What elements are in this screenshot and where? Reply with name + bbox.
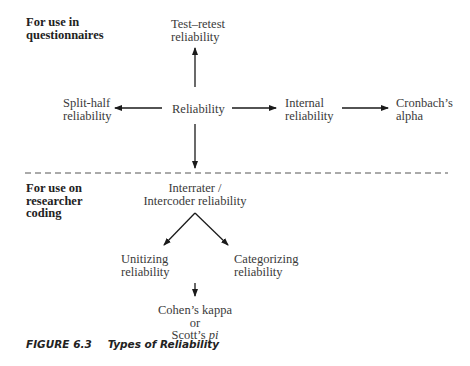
node-text: alpha bbox=[396, 110, 453, 123]
node-text: Intercoder reliability bbox=[135, 195, 255, 208]
node-text: reliability bbox=[63, 110, 112, 123]
section-label-line: For use in bbox=[26, 16, 104, 29]
node-text: reliability bbox=[234, 266, 299, 279]
node-categorizing: Categorizing reliability bbox=[234, 253, 299, 278]
section-label-line: For use on bbox=[26, 182, 82, 195]
node-reliability: Reliability bbox=[172, 103, 225, 116]
figure-caption: FIGURE 6.3Types of Reliability bbox=[26, 338, 219, 350]
section-label-line: coding bbox=[26, 207, 82, 220]
arrow-to-categorizing bbox=[195, 213, 228, 245]
node-unitizing: Unitizing reliability bbox=[121, 253, 170, 278]
section-label-researcher-coding: For use on researcher coding bbox=[26, 182, 82, 220]
node-interrater: Interrater / Intercoder reliability bbox=[135, 182, 255, 207]
section-label-line: questionnaires bbox=[26, 29, 104, 42]
figure-number: FIGURE 6.3 bbox=[26, 338, 92, 350]
node-split-half: Split-half reliability bbox=[63, 97, 112, 122]
node-text: Interrater / bbox=[135, 182, 255, 195]
figure-title: Types of Reliability bbox=[108, 338, 219, 350]
node-text: reliability bbox=[171, 31, 225, 44]
node-text: Internal bbox=[285, 97, 334, 110]
node-text: Test–retest bbox=[171, 18, 225, 31]
node-text: Categorizing bbox=[234, 253, 299, 266]
node-cohen-scott: Cohen’s kappa or Scott’s pi bbox=[145, 304, 245, 342]
node-text: Cohen’s kappa bbox=[145, 304, 245, 317]
arrow-to-unitizing bbox=[164, 213, 195, 245]
node-text: reliability bbox=[121, 266, 170, 279]
node-test-retest: Test–retest reliability bbox=[171, 18, 225, 43]
node-text: Cronbach’s bbox=[396, 97, 453, 110]
node-text: Reliability bbox=[172, 103, 225, 116]
node-text: Unitizing bbox=[121, 253, 170, 266]
node-text: Split-half bbox=[63, 97, 112, 110]
node-text: reliability bbox=[285, 110, 334, 123]
section-label-questionnaires: For use in questionnaires bbox=[26, 16, 104, 41]
node-internal: Internal reliability bbox=[285, 97, 334, 122]
node-cronbach: Cronbach’s alpha bbox=[396, 97, 453, 122]
